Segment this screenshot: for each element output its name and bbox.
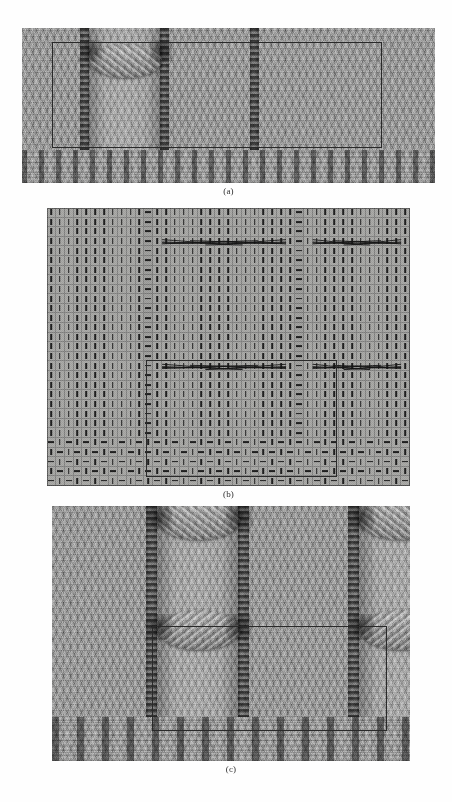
stitch-chart bbox=[47, 208, 410, 486]
chart-cell-knit bbox=[65, 304, 74, 314]
chart-cell-purl bbox=[295, 409, 304, 419]
chart-cell-knit bbox=[242, 304, 251, 314]
chart-cell-knit bbox=[56, 419, 65, 429]
chart-cell-knit bbox=[91, 438, 100, 448]
chart-cell-knit bbox=[82, 342, 91, 352]
chart-cell-purl bbox=[339, 467, 348, 477]
chart-cell-purl bbox=[180, 467, 189, 477]
chart-cell-knit bbox=[277, 227, 286, 237]
chart-cell-knit bbox=[401, 246, 410, 256]
chart-cell-knit bbox=[109, 361, 118, 371]
chart-cell-knit bbox=[339, 266, 348, 276]
chart-cell-knit bbox=[109, 457, 118, 467]
chart-cell-knit bbox=[392, 438, 401, 448]
chart-cell-knit bbox=[321, 275, 330, 285]
purl-gutter-c-3 bbox=[348, 506, 359, 717]
chart-cell-knit bbox=[109, 323, 118, 333]
chart-cell-knit bbox=[242, 381, 251, 391]
chart-cell-knit bbox=[118, 409, 127, 419]
chart-cell-knit bbox=[251, 285, 260, 295]
chart-cell-knit bbox=[375, 333, 384, 343]
chart-cell-knit bbox=[392, 342, 401, 352]
panel-c-rendered-cable-closeup: (c) bbox=[52, 506, 410, 761]
chart-cell-knit bbox=[330, 409, 339, 419]
chart-cell-knit bbox=[180, 256, 189, 266]
chart-cell-knit bbox=[392, 246, 401, 256]
chart-cell-knit bbox=[392, 256, 401, 266]
chart-cell-knit bbox=[251, 400, 260, 410]
chart-cell-knit bbox=[357, 294, 366, 304]
chart-cell-knit bbox=[65, 313, 74, 323]
chart-cell-knit bbox=[251, 275, 260, 285]
chart-cell-knit bbox=[180, 333, 189, 343]
chart-cell-purl bbox=[144, 371, 153, 381]
chart-cell-knit bbox=[286, 381, 295, 391]
chart-cell-knit bbox=[401, 467, 410, 477]
chart-cell-knit bbox=[277, 304, 286, 314]
chart-cell-knit bbox=[348, 381, 357, 391]
chart-cell-purl bbox=[392, 467, 401, 477]
chart-cell-purl bbox=[118, 457, 127, 467]
chart-cell-knit bbox=[206, 333, 215, 343]
chart-cell-knit bbox=[321, 361, 330, 371]
chart-cell-purl bbox=[65, 438, 74, 448]
chart-cell-purl bbox=[242, 457, 251, 467]
chart-cell-knit bbox=[215, 361, 224, 371]
panel-c-caption: (c) bbox=[52, 764, 410, 774]
chart-cell-knit bbox=[162, 333, 171, 343]
chart-cell-knit bbox=[313, 371, 322, 381]
chart-cell-knit bbox=[330, 227, 339, 237]
chart-cell-knit bbox=[224, 266, 233, 276]
chart-cell-knit bbox=[366, 390, 375, 400]
chart-cell-knit bbox=[251, 381, 260, 391]
chart-cell-knit bbox=[206, 266, 215, 276]
chart-cell-knit bbox=[109, 294, 118, 304]
chart-cell-knit bbox=[321, 266, 330, 276]
chart-cell-knit bbox=[224, 256, 233, 266]
chart-cell-knit bbox=[153, 381, 162, 391]
chart-cell-knit bbox=[56, 438, 65, 448]
chart-cell-knit bbox=[383, 409, 392, 419]
chart-cell-knit bbox=[109, 208, 118, 218]
chart-cell-knit bbox=[136, 333, 145, 343]
chart-cell-knit bbox=[286, 400, 295, 410]
chart-cell-knit bbox=[357, 409, 366, 419]
chart-cell-purl bbox=[313, 476, 322, 486]
chart-cell-purl bbox=[321, 467, 330, 477]
chart-cell-knit bbox=[224, 246, 233, 256]
chart-cell-knit bbox=[171, 409, 180, 419]
chart-cell-knit bbox=[392, 323, 401, 333]
chart-cell-knit bbox=[277, 342, 286, 352]
chart-cell-knit bbox=[56, 409, 65, 419]
chart-cell-knit bbox=[321, 304, 330, 314]
chart-cell-knit bbox=[127, 409, 136, 419]
chart-cell-knit bbox=[65, 352, 74, 362]
chart-cell-purl bbox=[357, 467, 366, 477]
chart-cell-knit bbox=[357, 476, 366, 486]
chart-cell-knit bbox=[74, 285, 83, 295]
chart-cell-knit bbox=[383, 323, 392, 333]
chart-cell-knit bbox=[136, 218, 145, 228]
chart-cell-knit bbox=[366, 409, 375, 419]
chart-cell-knit bbox=[206, 361, 215, 371]
chart-cell-knit bbox=[74, 227, 83, 237]
chart-cell-knit bbox=[304, 323, 313, 333]
chart-cell-knit bbox=[242, 208, 251, 218]
chart-cell-knit bbox=[277, 419, 286, 429]
chart-cell-knit bbox=[277, 246, 286, 256]
chart-cell-knit bbox=[56, 371, 65, 381]
chart-cell-knit bbox=[348, 400, 357, 410]
chart-cell-knit bbox=[251, 333, 260, 343]
chart-cell-knit bbox=[286, 409, 295, 419]
chart-cell-knit bbox=[127, 457, 136, 467]
chart-cell-knit bbox=[47, 409, 56, 419]
chart-cell-knit bbox=[268, 342, 277, 352]
chart-cell-knit bbox=[366, 333, 375, 343]
chart-cell-purl bbox=[295, 333, 304, 343]
chart-cell-knit bbox=[242, 256, 251, 266]
chart-cell-knit bbox=[171, 400, 180, 410]
chart-cell-purl bbox=[295, 390, 304, 400]
chart-cell-knit bbox=[189, 304, 198, 314]
chart-cell-knit bbox=[259, 294, 268, 304]
chart-cell-knit bbox=[56, 218, 65, 228]
